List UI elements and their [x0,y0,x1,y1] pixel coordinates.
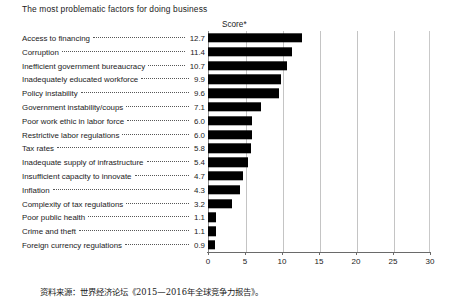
value-label: 11.4 [181,47,205,56]
bar-row: Restrictive labor regulations6.0 [0,128,453,142]
bar [208,144,251,153]
leader-dots [126,203,189,205]
bar [208,130,252,139]
leader-dots [125,244,189,246]
tick-mark [393,252,394,255]
x-tick-label: 25 [381,257,405,266]
tick-mark [430,252,431,255]
leader-dots [62,51,185,53]
category-label: Tax rates [22,144,54,153]
bar [208,199,232,208]
bar [208,213,216,222]
bar-row: Inflation4.3 [0,183,453,197]
bar [208,88,279,97]
x-tick-label: 0 [196,257,220,266]
category-label: Insufficient capacity to innovate [22,172,132,181]
bar [208,116,252,125]
tick-mark [282,252,283,255]
category-label: Inadequate supply of infrastructure [22,158,144,167]
bar [208,47,292,56]
leader-dots [148,65,184,67]
bar-row: Inadequate supply of infrastructure5.4 [0,155,453,169]
leader-dots [147,161,190,163]
x-tick-label: 15 [307,257,331,266]
category-label: Complexity of tax regulations [22,199,123,208]
chart-figure: The most problematic factors for doing b… [0,0,453,303]
value-label: 10.7 [181,61,205,70]
leader-dots [53,189,190,191]
category-label: Access to financing [22,33,90,42]
x-axis-title: Score* [222,20,247,29]
bar [208,240,215,249]
bar-rows: Access to financing12.7Corruption11.4Ine… [0,31,453,252]
leader-dots [93,37,185,39]
bar-row: Government instability/coups7.1 [0,100,453,114]
category-label: Poor work ethic in labor force [22,116,124,125]
leader-dots [126,106,189,108]
category-label: Restrictive labor regulations [22,130,119,139]
bar-row: Corruption11.4 [0,45,453,59]
tick-mark [208,252,209,255]
category-label: Inadequately educated workforce [22,75,138,84]
bar-row: Insufficient capacity to innovate4.7 [0,169,453,183]
category-label: Government instability/coups [22,102,123,111]
leader-dots [88,216,189,218]
chart-title: The most problematic factors for doing b… [22,4,207,14]
bar-row: Complexity of tax regulations3.2 [0,197,453,211]
x-tick-label: 30 [418,257,442,266]
bar-row: Crime and theft1.1 [0,224,453,238]
value-label: 12.7 [181,33,205,42]
leader-dots [127,120,189,122]
leader-dots [57,147,189,149]
leader-dots [81,92,189,94]
x-tick-label: 20 [344,257,368,266]
bar-row: Inadequately educated workforce9.9 [0,72,453,86]
bar-row: Tax rates5.8 [0,142,453,156]
bar-row: Poor public health1.1 [0,211,453,225]
source-note: 资料来源：世界经济论坛《2015—2016年全球竞争力报告》。 [40,285,263,297]
leader-dots [79,230,189,232]
tick-mark [319,252,320,255]
leader-dots [122,134,189,136]
leader-dots [135,175,190,177]
bar-row: Poor work ethic in labor force6.0 [0,114,453,128]
bar-row: Inefficient government bureaucracy10.7 [0,59,453,73]
bar [208,75,281,84]
bar-row: Policy instability9.6 [0,86,453,100]
bar [208,171,243,180]
bar [208,102,261,111]
bar-row: Access to financing12.7 [0,31,453,45]
x-tick-label: 5 [233,257,257,266]
category-label: Poor public health [22,213,85,222]
bar-row: Foreign currency regulations0.9 [0,238,453,252]
tick-mark [356,252,357,255]
bar [208,158,248,167]
bar [208,227,216,236]
bar [208,61,287,70]
bar [208,33,302,42]
category-label: Corruption [22,47,59,56]
category-label: Inflation [22,185,50,194]
category-label: Crime and theft [22,227,76,236]
bar [208,185,240,194]
category-label: Inefficient government bureaucracy [22,61,145,70]
category-label: Foreign currency regulations [22,241,122,250]
leader-dots [141,78,189,80]
category-label: Policy instability [22,89,78,98]
tick-mark [245,252,246,255]
x-tick-label: 10 [270,257,294,266]
